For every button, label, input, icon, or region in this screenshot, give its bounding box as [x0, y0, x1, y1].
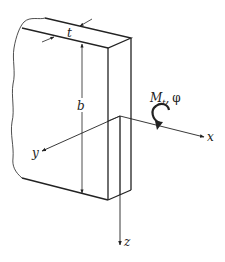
y-axis-label: y — [31, 146, 39, 160]
z-axis-label: z — [123, 235, 131, 249]
top-face — [22, 18, 131, 48]
width-label: b — [77, 99, 85, 113]
bottom-front-edge — [22, 178, 108, 200]
moment-label: Mt,φ — [149, 91, 181, 107]
axes — [42, 116, 204, 245]
x-axis-label: x — [207, 130, 214, 144]
thickness-label: t — [67, 26, 72, 40]
torsion-plate-diagram: t b x y z Mt,φ — [0, 0, 225, 262]
cut-edge — [11, 18, 45, 178]
plate — [11, 18, 131, 200]
bottom-side-edge — [108, 190, 131, 200]
x-axis — [120, 116, 204, 137]
